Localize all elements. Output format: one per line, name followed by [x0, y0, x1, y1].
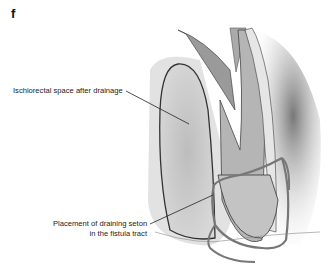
anatomy-drawing — [0, 0, 332, 266]
label-ischiorectal-space: Ischiorectal space after drainage — [13, 86, 123, 95]
label-seton-line2: in the fistula tract — [53, 229, 147, 238]
anatomical-illustration: f — [0, 0, 332, 266]
label-seton-line1: Placement of draining seton — [53, 219, 147, 228]
